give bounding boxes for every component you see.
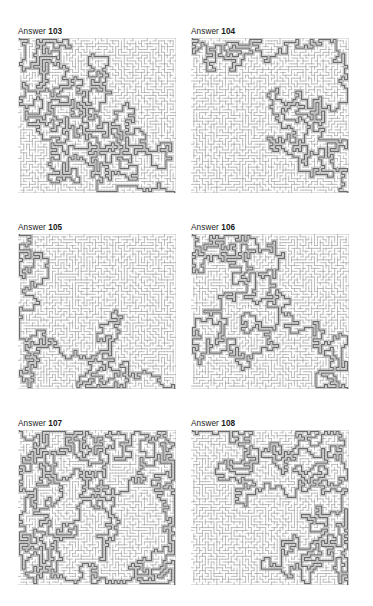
maze-graphic <box>191 430 349 585</box>
puzzle-label-prefix: Answer <box>191 419 219 428</box>
puzzle-label-prefix: Answer <box>18 419 46 428</box>
maze-puzzle-107: Answer 107 <box>18 419 176 585</box>
puzzle-label-107: Answer 107 <box>18 419 176 429</box>
maze-puzzle-108: Answer 108 <box>191 419 349 585</box>
puzzle-label-105: Answer 105 <box>18 223 176 233</box>
maze-box-106 <box>191 234 349 389</box>
maze-box-105 <box>18 234 176 389</box>
maze-puzzle-104: Answer 104 <box>191 27 349 193</box>
puzzle-label-prefix: Answer <box>18 27 46 36</box>
answer-key-sheet: Answer 103Answer 104Answer 105Answer 106… <box>0 0 373 606</box>
puzzle-label-number: 103 <box>48 27 62 36</box>
puzzle-label-number: 108 <box>221 419 235 428</box>
puzzle-label-108: Answer 108 <box>191 419 349 429</box>
maze-box-108 <box>191 430 349 585</box>
puzzle-label-number: 107 <box>48 419 62 428</box>
maze-puzzle-105: Answer 105 <box>18 223 176 389</box>
puzzle-label-prefix: Answer <box>18 223 46 232</box>
puzzle-label-103: Answer 103 <box>18 27 176 37</box>
puzzle-label-number: 105 <box>48 223 62 232</box>
maze-graphic <box>191 234 349 389</box>
maze-box-107 <box>18 430 176 585</box>
maze-graphic <box>18 430 176 585</box>
maze-box-104 <box>191 38 349 193</box>
puzzle-label-104: Answer 104 <box>191 27 349 37</box>
maze-graphic <box>18 38 176 193</box>
maze-puzzle-103: Answer 103 <box>18 27 176 193</box>
puzzle-label-106: Answer 106 <box>191 223 349 233</box>
maze-puzzle-106: Answer 106 <box>191 223 349 389</box>
puzzle-label-number: 106 <box>221 223 235 232</box>
maze-graphic <box>18 234 176 389</box>
maze-graphic <box>191 38 349 193</box>
puzzle-label-number: 104 <box>221 27 235 36</box>
puzzle-label-prefix: Answer <box>191 223 219 232</box>
puzzle-label-prefix: Answer <box>191 27 219 36</box>
maze-box-103 <box>18 38 176 193</box>
